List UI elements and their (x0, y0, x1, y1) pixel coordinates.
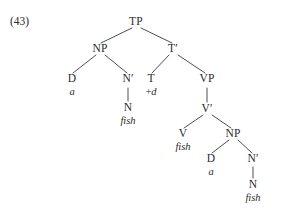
tree-terminal-term-fish-3: fish (245, 193, 260, 204)
feature-value: d (151, 86, 156, 97)
tree-node-tp: TP (129, 16, 143, 28)
tree-terminal-term-fish-1: fish (120, 116, 135, 127)
tree-edge-tbar-to-vp (178, 55, 205, 73)
tree-edge-tp-to-tbar (141, 28, 172, 43)
tree-node-d2: D (207, 153, 216, 165)
tree-edge-np1-to-d1 (73, 55, 96, 73)
tree-edges (0, 0, 281, 220)
tree-node-t: T (147, 73, 154, 85)
syntax-tree-figure: (43) TPNPT′DN′TVPNV′VNPDN′Nafishfishafis… (0, 0, 281, 220)
tree-edge-np2-to-nbar2 (238, 140, 252, 153)
tree-terminal-term-a-2: a (208, 167, 213, 178)
tree-node-n2: N (249, 179, 258, 191)
tree-node-nbar1: N′ (122, 73, 133, 85)
tree-edge-np2-to-d2 (212, 140, 229, 153)
tree-edge-tp-to-np1 (101, 28, 132, 43)
tree-edge-tbar-to-t (152, 55, 169, 73)
tree-edge-vbar-to-v (184, 115, 203, 128)
tree-feature-feat-plus-d: +d (145, 87, 156, 98)
tree-node-vbar: V′ (201, 103, 212, 115)
tree-terminal-term-fish-2: fish (175, 142, 190, 153)
tree-node-d1: D (68, 73, 77, 85)
tree-node-nbar2: N′ (247, 153, 258, 165)
tree-edge-np1-to-nbar1 (105, 55, 127, 73)
tree-node-vp: VP (199, 73, 214, 85)
tree-node-np2: NP (225, 128, 240, 140)
tree-terminal-term-a-1: a (69, 87, 74, 98)
tree-node-np1: NP (92, 43, 107, 55)
tree-edge-vbar-to-np2 (212, 115, 231, 128)
tree-node-tbar: T′ (168, 43, 178, 55)
tree-node-n1: N (124, 102, 133, 114)
tree-node-v: V (179, 128, 188, 140)
